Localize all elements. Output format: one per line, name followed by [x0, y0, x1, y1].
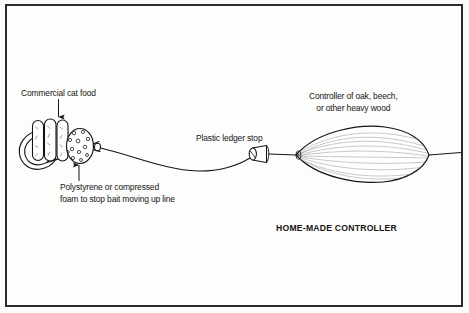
figure-caption: HOME-MADE CONTROLLER	[276, 222, 397, 234]
label-polystyrene-foam: Polystyrene or compressed foam to stop b…	[60, 182, 175, 205]
foam-ball	[67, 129, 94, 164]
label-plastic-ledger-stop: Plastic ledger stop	[196, 133, 262, 145]
cat-food-pellets	[33, 119, 69, 161]
label-controller-wood-line-2: or other heavy wood	[309, 103, 398, 115]
label-controller-wood: Controller of oak, beech, or other heavy…	[309, 91, 398, 114]
label-polystyrene-line-2: foam to stop bait moving up line	[60, 194, 175, 206]
fishing-line-mid	[269, 154, 297, 155]
label-commercial-cat-food: Commercial cat food	[21, 88, 96, 100]
diagram-artwork	[0, 0, 469, 313]
label-controller-wood-line-1: Controller of oak, beech,	[309, 91, 398, 103]
fishing-line-right	[429, 153, 461, 156]
fishing-rig-diagram: Commercial cat food Polystyrene or compr…	[0, 0, 469, 313]
plastic-ledger-stop	[249, 146, 269, 163]
label-polystyrene-line-1: Polystyrene or compressed	[60, 182, 175, 194]
line-knot	[93, 142, 101, 152]
wooden-controller	[296, 126, 429, 182]
fishing-line-left	[101, 148, 251, 171]
